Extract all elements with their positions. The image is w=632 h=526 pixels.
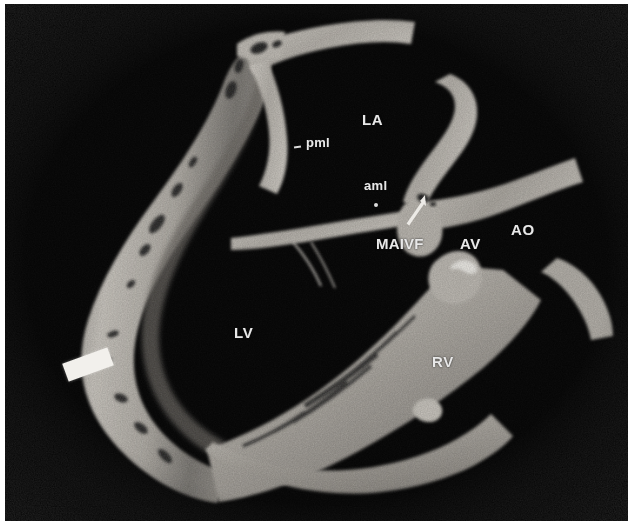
- photograph-plate: LA LV RV AO AV MAIVF pml aml: [5, 4, 628, 521]
- label-right-ventricle: RV: [432, 353, 454, 370]
- label-posterior-mitral-leaflet: pml: [306, 135, 330, 150]
- maivf-arrow-icon: [404, 194, 430, 228]
- label-anterior-mitral-leaflet: aml: [364, 178, 387, 193]
- label-left-atrium: LA: [362, 111, 383, 128]
- aml-pointer-dot: [374, 203, 378, 207]
- label-left-ventricle: LV: [234, 324, 253, 341]
- label-aortic-valve: AV: [460, 235, 481, 252]
- label-maivf: MAIVF: [376, 235, 424, 252]
- heart-specimen-image: [5, 4, 628, 521]
- specimen-vector: [5, 4, 628, 521]
- label-aorta: AO: [511, 221, 535, 238]
- specimen-photograph-page: LA LV RV AO AV MAIVF pml aml: [0, 0, 632, 526]
